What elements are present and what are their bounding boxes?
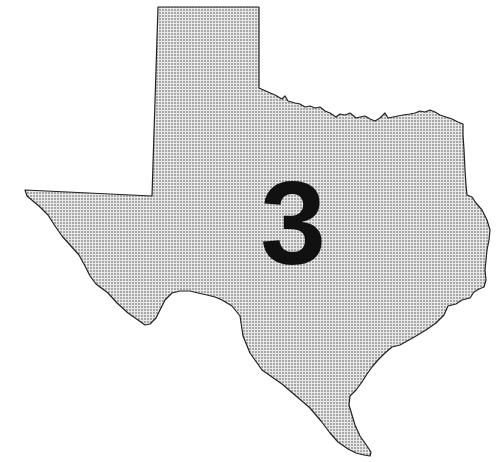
map-number-label: 3 (253, 168, 333, 278)
texas-map (0, 0, 499, 462)
